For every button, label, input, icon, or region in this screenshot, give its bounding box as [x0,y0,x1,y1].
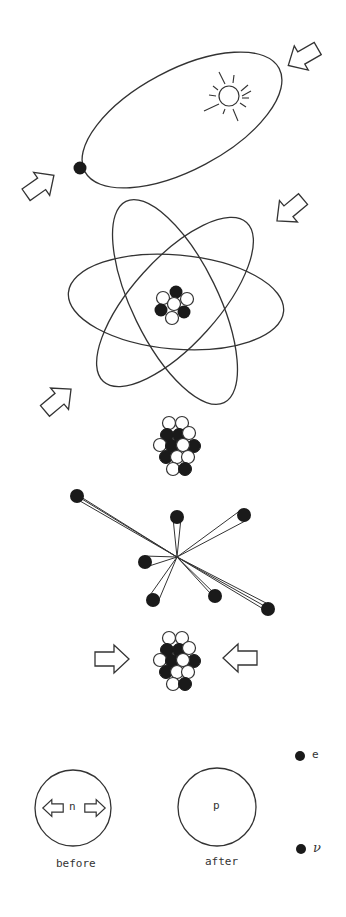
sun-icon [204,72,251,121]
electron-dot [295,751,305,761]
diagram-canvas [0,0,346,917]
particle [138,555,152,569]
arrow-icon [281,36,324,77]
neutrino-dot [296,844,306,854]
electron-label: e [312,748,319,761]
arrow-icon [36,378,80,421]
neutron-label: n [69,800,76,813]
particle [170,510,184,524]
planet-orbit [61,24,302,216]
arrow-icon [268,188,312,231]
arrow-icon [43,800,63,817]
planet [74,162,87,175]
atom-panel [36,182,312,421]
particle [237,508,251,522]
fission-panel [70,489,275,616]
before-label: before [56,857,96,870]
small-nucleus [155,286,194,325]
nucleus [154,632,201,691]
particle [70,489,84,503]
arrow-icon [18,164,62,206]
neutrino-label: ν [313,840,321,855]
arrow-icon [223,644,257,672]
beta-decay-panel [35,751,306,854]
arrow-icon [95,645,129,673]
fusion-panel [95,632,257,691]
arrow-icon [85,800,105,817]
nucleus [154,417,201,476]
solar-orbit-panel [18,24,325,216]
proton-label: p [213,799,220,812]
particle [261,602,275,616]
after-label: after [205,855,238,868]
particle [146,593,160,607]
particle [208,589,222,603]
